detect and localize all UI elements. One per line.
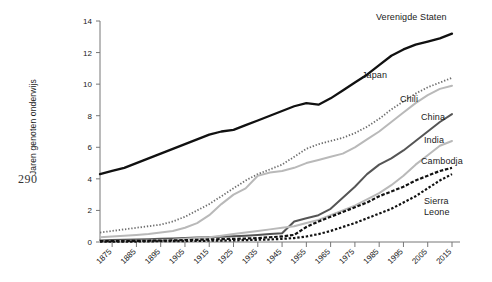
svg-text:8: 8 <box>88 112 93 121</box>
series-label-india: India <box>424 135 444 146</box>
education-years-line-chart: 290 Jaren genoten onderwijs 024681012141… <box>0 0 492 282</box>
svg-text:1935: 1935 <box>240 247 259 266</box>
series-group <box>100 34 452 242</box>
svg-text:2015: 2015 <box>434 247 453 266</box>
series-label-china: China <box>421 112 445 123</box>
svg-text:1875: 1875 <box>95 247 114 266</box>
svg-text:14: 14 <box>83 17 92 26</box>
svg-text:0: 0 <box>88 238 93 247</box>
series-label-cambodja: Cambodja <box>421 156 463 167</box>
svg-text:4: 4 <box>88 175 93 184</box>
svg-text:6: 6 <box>88 143 93 152</box>
series-label-sierra-leone: Sierra Leone <box>424 196 450 218</box>
svg-text:10: 10 <box>83 80 92 89</box>
svg-text:12: 12 <box>83 49 92 58</box>
series-label-chili: Chili <box>400 94 418 105</box>
series-line-sierra-leone <box>100 174 452 242</box>
x-axis-ticks: 1875188518951905191519251935194519551965… <box>95 242 454 266</box>
series-label-verenigde-staten: Verenigde Staten <box>376 12 447 23</box>
svg-text:1975: 1975 <box>337 247 356 266</box>
svg-text:2: 2 <box>88 206 93 215</box>
svg-text:1985: 1985 <box>362 247 381 266</box>
axes <box>100 21 460 242</box>
svg-text:1955: 1955 <box>289 247 308 266</box>
svg-text:2005: 2005 <box>410 247 429 266</box>
chart-canvas: 0246810121418751885189519051915192519351… <box>0 0 492 282</box>
series-line-chili <box>100 86 452 238</box>
svg-text:1905: 1905 <box>167 247 186 266</box>
series-line-china <box>100 114 452 240</box>
svg-text:1945: 1945 <box>265 247 284 266</box>
svg-text:1995: 1995 <box>386 247 405 266</box>
svg-text:1885: 1885 <box>119 247 138 266</box>
y-axis-ticks: 02468101214 <box>83 17 100 247</box>
svg-text:1925: 1925 <box>216 247 235 266</box>
series-label-japan: Japan <box>362 70 387 81</box>
svg-text:1915: 1915 <box>192 247 211 266</box>
svg-text:1895: 1895 <box>143 247 162 266</box>
svg-text:1965: 1965 <box>313 247 332 266</box>
